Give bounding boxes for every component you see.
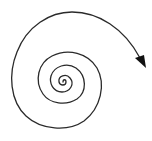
spiral-curve [12, 12, 146, 128]
spiral-line [12, 12, 140, 128]
spiral-arrow-diagram [0, 0, 152, 141]
arrowhead-icon [135, 55, 146, 68]
